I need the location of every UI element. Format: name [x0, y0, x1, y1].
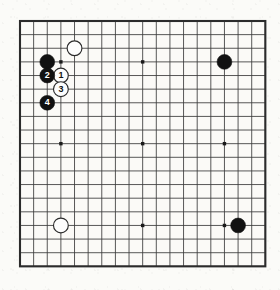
stone-black-4[interactable] — [231, 218, 246, 233]
star-point — [223, 142, 226, 145]
stone-white-1[interactable] — [67, 41, 82, 56]
stone-black-2[interactable] — [217, 54, 232, 69]
go-board[interactable] — [0, 0, 280, 290]
star-point — [59, 142, 62, 145]
stone-black-0[interactable] — [40, 54, 55, 69]
stone-white-3[interactable] — [53, 218, 68, 233]
stone-move-1-white[interactable] — [53, 68, 68, 83]
star-point — [141, 60, 144, 63]
stone-move-2-black[interactable] — [40, 68, 55, 83]
star-point — [141, 224, 144, 227]
stone-move-3-white[interactable] — [53, 82, 68, 97]
star-point — [141, 142, 144, 145]
go-diagram: 1234 — [0, 0, 280, 290]
stone-move-4-black[interactable] — [40, 95, 55, 110]
star-point — [223, 224, 226, 227]
star-point — [59, 60, 62, 63]
